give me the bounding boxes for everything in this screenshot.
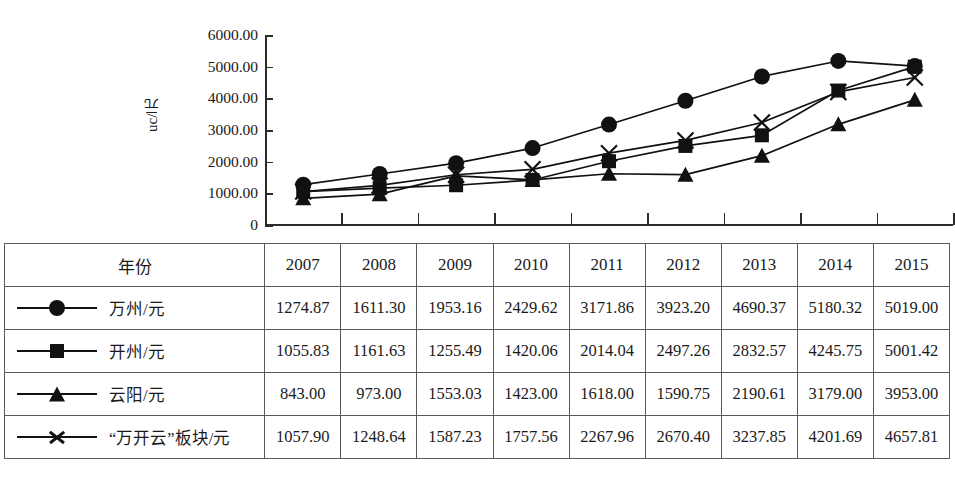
table-cell: 1248.64 <box>341 416 417 459</box>
table-cell: 1757.56 <box>493 416 569 459</box>
table-cell: 3179.00 <box>797 373 873 416</box>
y-axis-tick-label: 3000.00 <box>158 122 258 138</box>
table-cell: 5001.42 <box>873 330 949 373</box>
data-table-container: 年份200720082009201020112012201320142015万州… <box>4 243 950 459</box>
series-label: 开州/元 <box>109 339 165 363</box>
table-cell: 1553.03 <box>417 373 493 416</box>
y-axis-tick-label: 4000.00 <box>158 90 258 106</box>
table-cell: 1423.00 <box>493 373 569 416</box>
table-header-year-2012: 2012 <box>645 244 721 287</box>
table-row-legend-triangle: 云阳/元 <box>5 373 265 416</box>
series-label: “万开云”板块/元 <box>109 425 230 449</box>
table-cell: 1590.75 <box>645 373 721 416</box>
table-cell: 1255.49 <box>417 330 493 373</box>
table-cell: 2832.57 <box>721 330 797 373</box>
table-cell: 1587.23 <box>417 416 493 459</box>
table-cell: 4657.81 <box>873 416 949 459</box>
table-cell: 1611.30 <box>341 287 417 330</box>
table-header-year-2013: 2013 <box>721 244 797 287</box>
legend-symbol <box>50 344 64 358</box>
table-cell: 4690.37 <box>721 287 797 330</box>
table-cell: 843.00 <box>265 373 341 416</box>
table-cell: 4245.75 <box>797 330 873 373</box>
table-cell: 5180.32 <box>797 287 873 330</box>
table-cell: 3923.20 <box>645 287 721 330</box>
table-cell: 1055.83 <box>265 330 341 373</box>
table-header-year-2014: 2014 <box>797 244 873 287</box>
legend-marker-square-icon <box>11 341 103 361</box>
data-point-marker <box>907 92 923 107</box>
table-cell: 1274.87 <box>265 287 341 330</box>
table-cell: 2497.26 <box>645 330 721 373</box>
table-cell: 2267.96 <box>569 416 645 459</box>
y-axis-tick-label: 2000.00 <box>158 154 258 170</box>
table-cell: 2190.61 <box>721 373 797 416</box>
y-axis-tick-label: 6000.00 <box>158 27 258 43</box>
data-point-marker <box>830 53 846 69</box>
legend-marker-circle-icon <box>11 298 103 318</box>
table-cell: 3171.86 <box>569 287 645 330</box>
data-point-marker <box>754 68 770 84</box>
table-cell: 1057.90 <box>265 416 341 459</box>
y-axis-tick-mark <box>265 225 273 227</box>
table-row-legend-circle: 万州/元 <box>5 287 265 330</box>
table-header-year-2007: 2007 <box>265 244 341 287</box>
legend-symbol <box>49 300 65 316</box>
table-row-legend-x: “万开云”板块/元 <box>5 416 265 459</box>
y-axis-tick-label: 0 <box>158 217 258 233</box>
y-axis-tick-label: 1000.00 <box>158 185 258 201</box>
data-point-marker <box>830 116 846 131</box>
table-cell: 4201.69 <box>797 416 873 459</box>
table-header-year-2011: 2011 <box>569 244 645 287</box>
table-cell: 3953.00 <box>873 373 949 416</box>
table-row: 万州/元1274.871611.301953.162429.623171.863… <box>5 287 950 330</box>
table-row-legend-square: 开州/元 <box>5 330 265 373</box>
legend-symbol <box>48 428 66 446</box>
table-cell: 3237.85 <box>721 416 797 459</box>
legend-cell: “万开云”板块/元 <box>11 416 262 458</box>
table-row: 开州/元1055.831161.631255.491420.062014.042… <box>5 330 950 373</box>
table-cell: 2014.04 <box>569 330 645 373</box>
data-table: 年份200720082009201020112012201320142015万州… <box>4 243 950 459</box>
table-header-year-label: 年份 <box>5 244 265 287</box>
y-axis-tick-label: 5000.00 <box>158 59 258 75</box>
table-cell: 5019.00 <box>873 287 949 330</box>
table-row: “万开云”板块/元1057.901248.641587.231757.56226… <box>5 416 950 459</box>
legend-symbol <box>49 387 65 402</box>
table-row: 云阳/元843.00973.001553.031423.001618.00159… <box>5 373 950 416</box>
table-header-year-2009: 2009 <box>417 244 493 287</box>
legend-cell: 万州/元 <box>11 287 262 329</box>
data-point-marker <box>677 93 693 109</box>
data-point-marker <box>755 128 769 142</box>
x-axis-tick-mark <box>953 213 955 225</box>
data-point-marker <box>525 140 541 156</box>
table-header-row: 年份200720082009201020112012201320142015 <box>5 244 950 287</box>
line-chart: uc/元 6000.005000.004000.003000.002000.00… <box>0 0 954 240</box>
data-point-marker <box>754 148 770 163</box>
table-header-year-2015: 2015 <box>873 244 949 287</box>
series-label: 万州/元 <box>109 296 165 320</box>
data-point-marker <box>601 117 617 133</box>
legend-marker-x-icon <box>11 427 103 447</box>
plot-area <box>265 35 953 225</box>
legend-marker-triangle-icon <box>11 384 103 404</box>
series-canvas <box>265 35 953 225</box>
table-cell: 1953.16 <box>417 287 493 330</box>
legend-cell: 开州/元 <box>11 330 262 372</box>
series-label: 云阳/元 <box>109 382 165 406</box>
table-cell: 973.00 <box>341 373 417 416</box>
table-cell: 1161.63 <box>341 330 417 373</box>
table-header-year-2010: 2010 <box>493 244 569 287</box>
table-header-year-2008: 2008 <box>341 244 417 287</box>
table-cell: 2429.62 <box>493 287 569 330</box>
table-cell: 2670.40 <box>645 416 721 459</box>
y-axis-tick-labels: 6000.005000.004000.003000.002000.001000.… <box>155 0 258 240</box>
table-cell: 1420.06 <box>493 330 569 373</box>
legend-cell: 云阳/元 <box>11 373 262 415</box>
data-point-marker <box>754 114 770 130</box>
table-cell: 1618.00 <box>569 373 645 416</box>
